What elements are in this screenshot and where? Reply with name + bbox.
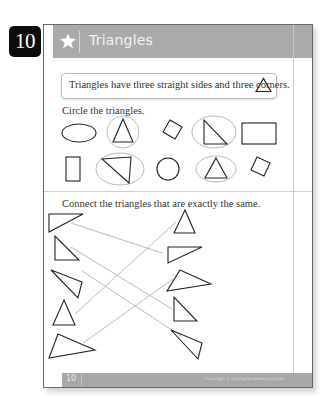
left-triangle-1[interactable] (49, 214, 83, 232)
connect-triangles-area (44, 25, 312, 387)
left-triangle-2[interactable] (55, 236, 79, 260)
left-triangle-3[interactable] (51, 270, 82, 298)
right-triangle-5[interactable] (171, 330, 202, 359)
footer-copyright: Copyright © Dorling Kindersley Limited (205, 376, 284, 381)
footer-band: 10 Copyright © Dorling Kindersley Limite… (62, 373, 312, 387)
page-number-badge: 10 (9, 26, 41, 57)
left-triangle-5[interactable] (49, 334, 95, 358)
right-triangle-1[interactable] (174, 210, 195, 233)
connection-lines (71, 222, 181, 343)
worksheet-page: Triangles Triangles have three straight … (43, 24, 313, 388)
right-triangle-3[interactable] (167, 270, 211, 291)
footer-page-number: 10 (66, 374, 76, 383)
footer-divider (81, 373, 82, 387)
right-triangle-4[interactable] (174, 297, 197, 321)
left-triangle-4[interactable] (53, 300, 75, 325)
right-triangle-2[interactable] (168, 247, 202, 263)
